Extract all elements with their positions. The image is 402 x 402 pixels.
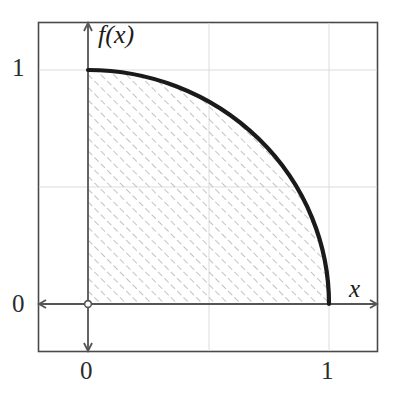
- origin-marker: [85, 301, 92, 308]
- plot-svg: [0, 0, 402, 402]
- x-tick-label-1: 1: [321, 358, 334, 383]
- y-tick-label-0: 0: [12, 291, 25, 316]
- y-tick-label-1: 1: [12, 55, 25, 80]
- y-axis-name-label: f(x): [98, 22, 134, 48]
- figure-container: 1 0 0 1 f(x) x: [0, 0, 402, 402]
- x-tick-label-0: 0: [80, 358, 93, 383]
- x-axis-name-label: x: [349, 276, 360, 301]
